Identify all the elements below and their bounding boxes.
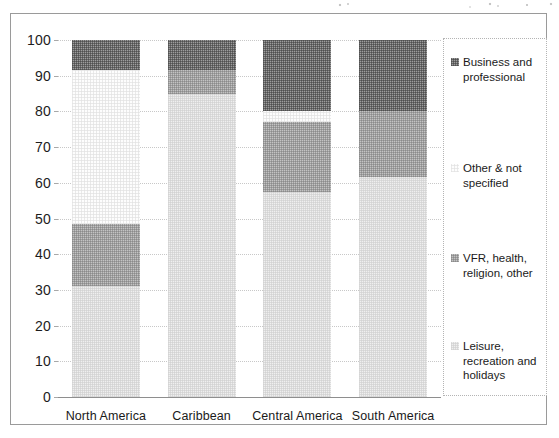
legend-label: VFR, health, religion, other [463,251,533,280]
x-axis-category-label: South America [352,409,435,423]
bar-segment-leisure [359,177,427,397]
y-axis-tick-mark [54,219,58,220]
y-axis-tick-label: 60 [35,175,51,191]
y-axis-tick-label: 90 [35,68,51,84]
x-axis-category-label: Central America [252,409,342,423]
bar-segment-business [359,40,427,111]
bar-segment-other [263,111,331,122]
y-axis-tick-mark [54,40,58,41]
y-axis-tick-label: 80 [35,103,51,119]
legend-label: Business and professional [463,55,532,84]
bar-stack [359,40,427,397]
y-axis-tick-mark [54,183,58,184]
x-axis-category-label: Caribbean [172,409,231,423]
y-axis-tick-label: 0 [43,389,51,405]
bar-stack [263,40,331,397]
y-axis-tick-mark [54,147,58,148]
x-axis-category-label: North America [66,409,147,423]
legend-label: Leisure, recreation and holidays [463,339,537,383]
chart-frame: 1009080706050403020100 Business and prof… [10,13,547,425]
other-swatch [451,164,459,172]
bar-segment-leisure [72,286,140,397]
legend-label: Other & not specified [463,161,522,190]
y-axis-tick-mark [54,111,58,112]
y-axis-tick-mark [54,290,58,291]
y-axis-tick-mark [54,76,58,77]
plot-area: 1009080706050403020100 [58,40,441,397]
y-axis-tick-label: 50 [35,211,51,227]
bar-segment-business [263,40,331,111]
bar-segment-other [72,70,140,224]
bar-stack [72,40,140,397]
y-axis-tick-label: 100 [27,32,51,48]
bar-segment-vfr [168,70,236,93]
y-axis-tick-label: 30 [35,282,51,298]
legend-entry: Other & not specified [451,161,546,190]
bar-segment-business [168,40,236,70]
bar-segment-vfr [72,224,140,286]
bar-segment-leisure [263,192,331,397]
leisure-swatch [451,342,459,350]
vfr-swatch [451,254,459,262]
bar-stack [168,40,236,397]
y-axis-tick-label: 10 [35,353,51,369]
chart-legend: Business and professionalOther & not spe… [443,38,547,396]
legend-entry: Leisure, recreation and holidays [451,339,546,383]
y-axis-tick-mark [54,361,58,362]
legend-entry: Business and professional [451,55,546,84]
bar-segment-leisure [168,94,236,397]
x-axis-line [58,397,441,398]
y-axis-tick-mark [54,397,58,398]
y-axis-tick-label: 20 [35,318,51,334]
y-axis-tick-label: 40 [35,246,51,262]
y-axis-tick-label: 70 [35,139,51,155]
y-axis-tick-mark [54,326,58,327]
scan-noise-artifact [0,0,559,13]
bar-segment-business [72,40,140,70]
business-swatch [451,58,459,66]
bar-segment-vfr [359,111,427,177]
bar-segment-vfr [263,122,331,192]
y-axis-tick-mark [54,254,58,255]
legend-entry: VFR, health, religion, other [451,251,546,280]
